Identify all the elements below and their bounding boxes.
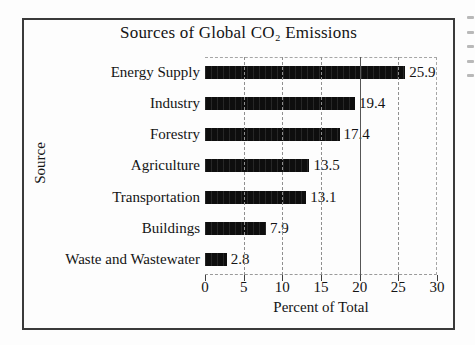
bar-row-6: Waste and Wastewater2.8 bbox=[24, 244, 453, 275]
value-label: 7.9 bbox=[270, 220, 289, 237]
gridline-15 bbox=[321, 57, 322, 275]
chart-canvas: Sources of Global CO₂ Emissions Source E… bbox=[0, 0, 475, 345]
bar-row-0: Energy Supply25.9 bbox=[24, 57, 453, 88]
bar bbox=[205, 159, 309, 172]
gridline-5 bbox=[244, 57, 245, 275]
x-tick-label-30: 30 bbox=[423, 279, 451, 296]
x-tick-label-15: 15 bbox=[307, 279, 335, 296]
gridline-25 bbox=[398, 57, 399, 275]
x-tick-label-20: 20 bbox=[346, 279, 374, 296]
x-axis-title: Percent of Total bbox=[205, 299, 437, 316]
x-tick-label-10: 10 bbox=[268, 279, 296, 296]
bar-row-5: Buildings7.9 bbox=[24, 213, 453, 244]
bar bbox=[205, 66, 405, 79]
gridline-10 bbox=[282, 57, 283, 275]
value-label: 13.1 bbox=[310, 189, 336, 206]
category-label: Agriculture bbox=[24, 150, 200, 181]
chart-title: Sources of Global CO₂ Emissions bbox=[24, 23, 453, 43]
category-label: Industry bbox=[24, 88, 200, 119]
page-edge-fragment bbox=[467, 45, 474, 48]
value-label: 19.4 bbox=[359, 95, 385, 112]
bar-row-2: Forestry17.4 bbox=[24, 119, 453, 150]
value-label: 2.8 bbox=[231, 251, 250, 268]
bar bbox=[205, 97, 355, 110]
bar-row-1: Industry19.4 bbox=[24, 88, 453, 119]
category-label: Energy Supply bbox=[24, 57, 200, 88]
page-edge-fragment bbox=[467, 16, 474, 19]
value-label: 25.9 bbox=[409, 64, 435, 81]
chart-frame: Sources of Global CO₂ Emissions Source E… bbox=[22, 18, 455, 330]
category-label: Buildings bbox=[24, 213, 200, 244]
bar bbox=[205, 253, 227, 266]
x-tick-label-25: 25 bbox=[384, 279, 412, 296]
bar bbox=[205, 191, 306, 204]
value-label: 13.5 bbox=[313, 157, 339, 174]
x-tick-label-5: 5 bbox=[230, 279, 258, 296]
page-edge-fragment bbox=[467, 60, 474, 63]
category-label: Forestry bbox=[24, 119, 200, 150]
bar-row-3: Agriculture13.5 bbox=[24, 150, 453, 181]
bar-row-4: Transportation13.1 bbox=[24, 182, 453, 213]
category-label: Waste and Wastewater bbox=[24, 244, 200, 275]
page-edge-fragment bbox=[467, 31, 474, 34]
category-label: Transportation bbox=[24, 182, 200, 213]
bar bbox=[205, 222, 266, 235]
gridline-20 bbox=[360, 57, 361, 275]
value-label: 17.4 bbox=[344, 126, 370, 143]
x-tick-label-0: 0 bbox=[191, 279, 219, 296]
bar bbox=[205, 128, 340, 141]
page-edge-fragment bbox=[467, 74, 474, 77]
